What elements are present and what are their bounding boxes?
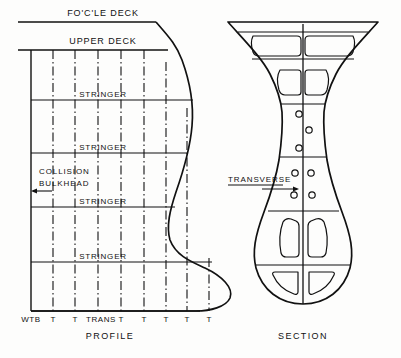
stringer-label-3: STRINGER xyxy=(79,197,127,206)
frame-label-t3: T xyxy=(119,315,124,324)
upper-deck-label: UPPER DECK xyxy=(69,36,137,46)
frame-label-t6: T xyxy=(185,315,190,324)
frame-label-wtb: WTB xyxy=(21,315,41,324)
profile-caption: PROFILE xyxy=(86,331,134,341)
section-caption: SECTION xyxy=(278,331,328,341)
naval-bow-structure-drawing: FO'C'LE DECK UPPER DECK STRINGER STRINGE… xyxy=(0,0,401,358)
stringer-label-1: STRINGER xyxy=(79,90,127,99)
collision-bulkhead-label-line2: BULKHEAD xyxy=(39,179,89,188)
frame-label-t2: T xyxy=(73,315,78,324)
frame-label-t7: T xyxy=(207,315,212,324)
collision-bulkhead-label-line1: COLLISION xyxy=(39,167,90,176)
transverse-label: TRANSVERSE xyxy=(228,175,291,184)
frame-label-trans: TRANS xyxy=(86,315,116,324)
stringer-label-2: STRINGER xyxy=(79,143,127,152)
drawing-canvas: FO'C'LE DECK UPPER DECK STRINGER STRINGE… xyxy=(0,0,401,358)
focle-deck-label: FO'C'LE DECK xyxy=(67,8,139,18)
frame-label-t1: T xyxy=(51,315,56,324)
frame-label-t5: T xyxy=(164,315,169,324)
stringer-label-4: STRINGER xyxy=(79,252,127,261)
frame-label-t4: T xyxy=(142,315,147,324)
